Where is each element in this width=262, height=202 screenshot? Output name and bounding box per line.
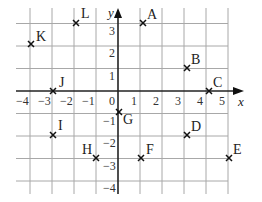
- svg-text:A: A: [147, 7, 158, 22]
- svg-text:G: G: [123, 112, 133, 127]
- svg-text:4: 4: [197, 94, 203, 108]
- svg-text:−3: −3: [38, 94, 51, 108]
- svg-text:0: 0: [109, 94, 115, 108]
- point-D: D: [184, 119, 201, 138]
- svg-text:1: 1: [109, 69, 115, 83]
- svg-text:2: 2: [153, 94, 159, 108]
- cross-marker-icon: [50, 132, 56, 138]
- svg-text:−2: −2: [103, 136, 116, 150]
- cross-marker-icon: [184, 132, 190, 138]
- x-tick-labels: −4 −3 −2 −1 0 1 2 3 4 5: [16, 94, 225, 108]
- svg-text:5: 5: [219, 94, 225, 108]
- svg-text:3: 3: [109, 24, 115, 38]
- y-axis-label: y: [106, 5, 114, 20]
- svg-text:C: C: [213, 75, 222, 90]
- svg-text:H: H: [82, 142, 92, 157]
- svg-text:E: E: [233, 142, 242, 157]
- svg-text:I: I: [58, 118, 63, 133]
- svg-text:2: 2: [109, 46, 115, 60]
- svg-text:−4: −4: [103, 181, 116, 195]
- svg-text:J: J: [59, 75, 65, 90]
- svg-text:1: 1: [131, 94, 137, 108]
- svg-text:−3: −3: [103, 159, 116, 173]
- svg-text:K: K: [36, 29, 46, 44]
- y-axis-arrow-icon: [114, 8, 122, 18]
- svg-text:−1: −1: [82, 94, 95, 108]
- svg-text:−4: −4: [16, 94, 29, 108]
- x-axis-label: x: [237, 94, 244, 109]
- cross-marker-icon: [116, 109, 122, 115]
- point-K: K: [28, 29, 46, 47]
- svg-text:B: B: [191, 52, 200, 67]
- svg-text:−1: −1: [103, 114, 116, 128]
- coordinate-grid: x y −4 −3 −2 −1 0 1 2 3 4 5 3 2 1 −1 −2 …: [0, 0, 262, 202]
- svg-text:L: L: [81, 6, 90, 21]
- y-tick-labels: 3 2 1 −1 −2 −3 −4: [103, 24, 116, 195]
- svg-text:D: D: [191, 119, 201, 134]
- svg-text:3: 3: [175, 94, 181, 108]
- svg-text:F: F: [146, 142, 154, 157]
- svg-text:−2: −2: [60, 94, 73, 108]
